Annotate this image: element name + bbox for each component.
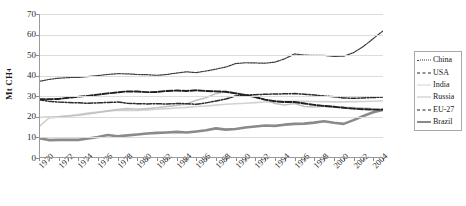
- line-chart: Mt CH4 010203040506070 19701972197419761…: [0, 0, 466, 206]
- legend-label: Russia: [433, 93, 454, 101]
- legend-swatch-icon: [417, 69, 431, 76]
- y-axis-title: Mt CH4: [2, 54, 16, 114]
- legend: ChinaUSAIndiaRussiaEU-27Brazil: [414, 51, 462, 131]
- legend-item-eu-27[interactable]: EU-27: [417, 104, 460, 116]
- y-tick-label: 70: [2, 10, 36, 19]
- legend-swatch-icon: [417, 119, 431, 126]
- plot-frame: [39, 14, 383, 158]
- legend-swatch-icon: [417, 94, 431, 101]
- legend-item-usa[interactable]: USA: [417, 66, 460, 78]
- legend-swatch-icon: [417, 81, 431, 88]
- legend-item-brazil[interactable]: Brazil: [417, 116, 460, 128]
- y-tick-label: 20: [2, 112, 36, 121]
- legend-item-india[interactable]: India: [417, 79, 460, 91]
- legend-item-russia[interactable]: Russia: [417, 91, 460, 103]
- y-tick-label: 50: [2, 51, 36, 60]
- legend-swatch-icon: [417, 57, 431, 64]
- y-tick-label: 40: [2, 71, 36, 80]
- plot-area: [39, 14, 383, 158]
- y-tick-label: 60: [2, 30, 36, 39]
- y-tick-label: 10: [2, 133, 36, 142]
- legend-item-china[interactable]: China: [417, 54, 460, 66]
- y-tick-label: 30: [2, 92, 36, 101]
- legend-swatch-icon: [417, 106, 431, 113]
- legend-label: USA: [433, 69, 449, 77]
- legend-label: China: [433, 56, 452, 64]
- y-tick-label: 0: [2, 154, 36, 163]
- legend-label: Brazil: [433, 118, 453, 126]
- legend-label: India: [433, 81, 449, 89]
- legend-label: EU-27: [433, 106, 454, 114]
